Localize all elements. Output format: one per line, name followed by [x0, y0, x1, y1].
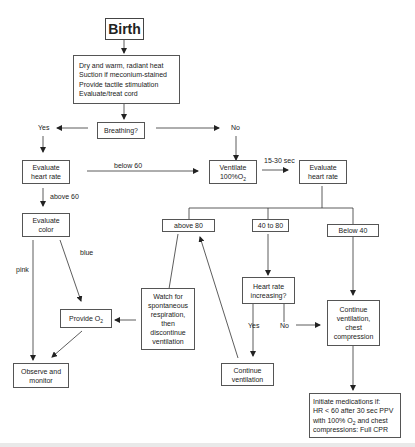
continue-ventilation-chest-node: Continue ventilation, chest compression: [327, 300, 380, 346]
evaluate-heart-rate-right-label: Evaluate heart rate: [308, 163, 338, 181]
above-80-node: above 80: [162, 219, 215, 232]
meds-line-4: compressions: Full CPR: [313, 425, 393, 435]
edge-label-below-60: below 60: [114, 162, 142, 170]
meds-line-3-suffix: and chest: [355, 417, 387, 424]
observe-monitor-node: Observe and monitor: [13, 363, 69, 388]
provide-o2-text: Provide O: [69, 315, 100, 322]
ventilate-node: Ventilate 100%O2: [209, 160, 257, 184]
evaluate-color-label: Evaluate color: [32, 216, 59, 234]
ventilate-label: Ventilate 100%O2: [220, 163, 247, 181]
edge-label-blue: blue: [80, 249, 93, 257]
evaluate-heart-rate-left-node: Evaluate heart rate: [22, 160, 70, 184]
below-40-label: Below 40: [339, 226, 368, 235]
edge-label-no: No: [231, 124, 240, 132]
initial-steps-label: Dry and warm, radiant heat Suction if me…: [79, 61, 167, 99]
breathing-decision-node: Breathing?: [97, 122, 145, 139]
ventilate-subscript: 2: [243, 176, 246, 182]
meds-line-3-prefix: with 100% O: [313, 417, 353, 424]
observe-monitor-label: Observe and monitor: [21, 367, 61, 385]
evaluate-heart-rate-right-node: Evaluate heart rate: [299, 160, 347, 184]
edge-label-hr-no: No: [280, 322, 289, 330]
edge-label-interval: 15-30 sec: [264, 157, 295, 165]
range-40-80-label: 40 to 80: [258, 221, 283, 230]
initiate-medications-text: Initiate medications if: HR < 60 after 3…: [313, 397, 393, 435]
provide-o2-label: Provide O2: [69, 314, 103, 323]
continue-ventilation-node: Continue ventilation: [221, 363, 274, 386]
provide-o2-node: Provide O2: [60, 309, 112, 328]
meds-line-2: HR < 60 after 30 sec PPV: [313, 406, 393, 416]
above-80-label: above 80: [174, 221, 203, 230]
edge-label-pink: pink: [16, 266, 29, 274]
edge-label-above-60: above 60: [50, 193, 79, 201]
continue-ventilation-chest-label: Continue ventilation, chest compression: [334, 305, 374, 341]
breathing-label: Breathing?: [104, 126, 138, 135]
heart-rate-increasing-node: Heart rate increasing?: [242, 277, 295, 304]
continue-ventilation-label: Continue ventilation: [232, 366, 264, 384]
meds-line-3: with 100% O2 and chest: [313, 416, 393, 426]
watch-spontaneous-node: Watch for spontaneous respiration, then …: [141, 288, 195, 350]
initial-steps-node: Dry and warm, radiant heat Suction if me…: [73, 55, 180, 104]
resuscitation-flowchart: Birth Dry and warm, radiant heat Suction…: [0, 0, 415, 447]
evaluate-color-node: Evaluate color: [22, 213, 70, 237]
edge-label-hr-yes: Yes: [248, 322, 259, 330]
birth-label: Birth: [108, 21, 141, 37]
footer-bar: [0, 443, 415, 447]
edge-label-yes: Yes: [38, 124, 49, 132]
initiate-medications-node: Initiate medications if: HR < 60 after 3…: [309, 393, 401, 438]
evaluate-heart-rate-left-label: Evaluate heart rate: [31, 163, 61, 181]
birth-node: Birth: [105, 18, 144, 40]
range-40-80-node: 40 to 80: [252, 219, 289, 232]
below-40-node: Below 40: [327, 224, 379, 237]
watch-spontaneous-label: Watch for spontaneous respiration, then …: [148, 292, 188, 346]
heart-rate-increasing-label: Heart rate increasing?: [251, 282, 287, 300]
provide-o2-subscript: 2: [100, 318, 103, 324]
meds-line-1: Initiate medications if:: [313, 397, 393, 407]
